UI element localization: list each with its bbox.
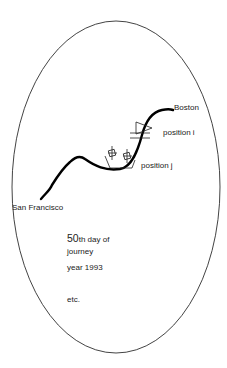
position-i-label: position i — [163, 129, 195, 137]
note-etc: etc. — [67, 296, 80, 304]
journey-diagram — [0, 0, 227, 368]
note-day-number: 50 — [67, 232, 79, 244]
note-year: year 1993 — [67, 264, 103, 272]
city-label-san-francisco: San Francisco — [12, 204, 63, 212]
note-day-suffix: th day of — [79, 235, 110, 244]
note-day: 50th day of — [67, 233, 109, 244]
route-curve — [41, 109, 173, 199]
city-label-boston: Boston — [174, 104, 199, 112]
ship-position-j-icon — [105, 146, 135, 168]
note-journey: journey — [67, 248, 93, 256]
position-j-label: position j — [141, 162, 173, 170]
boundary-ellipse — [12, 21, 220, 353]
